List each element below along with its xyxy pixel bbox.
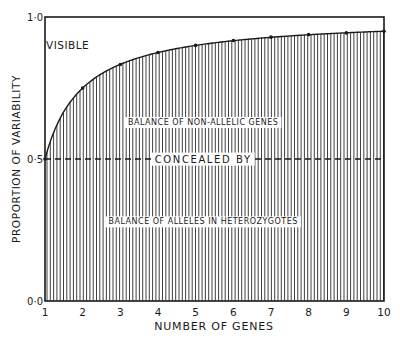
svg-text:CONCEALED BY: CONCEALED BY xyxy=(155,154,252,165)
svg-text:6: 6 xyxy=(230,306,237,318)
data-point xyxy=(156,51,160,55)
svg-text:5: 5 xyxy=(192,306,199,318)
svg-text:10: 10 xyxy=(377,306,390,318)
svg-text:4: 4 xyxy=(155,306,162,318)
svg-text:0·5: 0·5 xyxy=(27,154,43,165)
svg-text:9: 9 xyxy=(343,306,350,318)
svg-text:3: 3 xyxy=(117,306,124,318)
data-point xyxy=(232,39,236,43)
data-point xyxy=(81,86,85,90)
annotation-label: BALANCE OF ALLELES IN HETEROZYGOTES xyxy=(105,216,300,227)
data-point xyxy=(269,35,273,39)
svg-text:7: 7 xyxy=(268,306,275,318)
svg-text:1·0: 1·0 xyxy=(27,12,43,23)
annotation-label: BALANCE OF NON-ALLELIC GENES xyxy=(125,117,281,128)
data-point xyxy=(194,44,198,48)
annotation-labels: VISIBLEBALANCE OF NON-ALLELIC GENESCONCE… xyxy=(46,39,301,227)
svg-text:BALANCE OF NON-ALLELIC GENES: BALANCE OF NON-ALLELIC GENES xyxy=(128,118,278,127)
data-curve xyxy=(45,31,384,159)
y-axis-label: PROPORTION OF VARIABILITY xyxy=(10,75,22,243)
data-point xyxy=(382,29,386,33)
data-point xyxy=(119,63,123,67)
data-point xyxy=(307,33,311,37)
svg-text:0·0: 0·0 xyxy=(27,296,43,307)
x-axis-label: NUMBER OF GENES xyxy=(154,320,274,333)
annotation-label: CONCEALED BY xyxy=(152,153,255,166)
annotation-label: VISIBLE xyxy=(46,39,89,51)
svg-text:2: 2 xyxy=(79,306,86,318)
svg-text:BALANCE OF ALLELES IN HETEROZY: BALANCE OF ALLELES IN HETEROZYGOTES xyxy=(108,217,297,226)
svg-text:1: 1 xyxy=(42,306,49,318)
x-axis-ticks: 12345678910 xyxy=(42,306,391,318)
data-point xyxy=(345,31,349,35)
chart: VISIBLEBALANCE OF NON-ALLELIC GENESCONCE… xyxy=(0,0,400,340)
svg-text:VISIBLE: VISIBLE xyxy=(46,39,89,51)
y-axis-ticks: 0·00·51·0 xyxy=(27,12,43,307)
svg-text:8: 8 xyxy=(305,306,312,318)
